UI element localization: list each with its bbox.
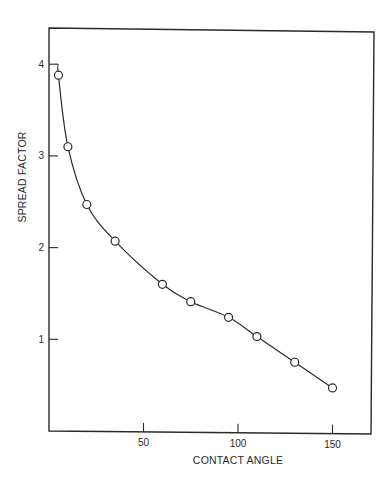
data-curve	[58, 64, 333, 388]
data-point-marker	[225, 313, 233, 321]
y-axis-ticks: 1234	[38, 59, 58, 345]
data-point-marker	[111, 237, 119, 245]
y-tick-label: 4	[38, 59, 44, 70]
data-point-marker	[253, 333, 261, 341]
data-points	[54, 71, 336, 392]
y-tick-label: 3	[38, 150, 44, 161]
data-point-marker	[187, 298, 195, 306]
x-axis-ticks: 50100150	[138, 423, 341, 450]
y-tick-label: 2	[38, 242, 44, 253]
data-point-marker	[54, 71, 62, 79]
plot-border	[49, 28, 374, 434]
data-point-marker	[291, 358, 299, 366]
plot-frame	[49, 28, 374, 434]
data-point-marker	[329, 384, 337, 392]
x-tick-label: 150	[324, 439, 341, 450]
data-point-marker	[158, 280, 166, 288]
data-point-marker	[83, 201, 91, 209]
data-point-marker	[64, 143, 72, 151]
y-axis-label: SPREAD FACTOR	[16, 131, 28, 222]
x-tick-label: 50	[138, 437, 150, 448]
x-axis-label: CONTACT ANGLE	[193, 454, 283, 466]
chart: 1234 50100150 CONTACT ANGLE SPREAD FACTO…	[0, 0, 391, 481]
y-tick-label: 1	[38, 334, 44, 345]
x-tick-label: 100	[230, 438, 247, 449]
